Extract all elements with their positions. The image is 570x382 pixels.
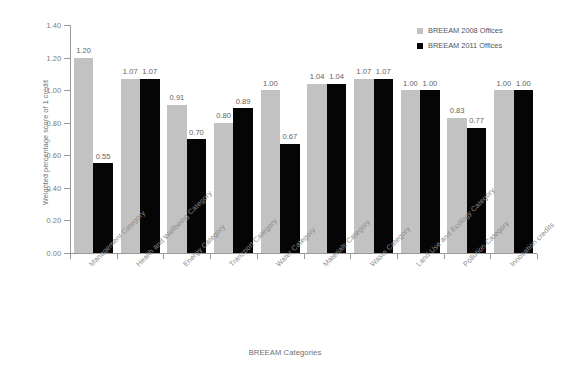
x-axis-tick	[397, 254, 398, 259]
bar-value-label: 0.83	[443, 107, 471, 115]
bar	[280, 144, 300, 253]
bar	[233, 108, 253, 253]
legend-label-2008: BREEAM 2008 Offices	[428, 26, 503, 35]
bar-value-label: 1.00	[510, 80, 538, 88]
x-axis-tick	[444, 254, 445, 259]
bar	[327, 84, 347, 253]
bar-value-label: 1.00	[416, 80, 444, 88]
x-axis-tick	[117, 254, 118, 259]
x-axis-tick	[304, 254, 305, 259]
legend-item-2011[interactable]: BREEAM 2011 Offices	[417, 39, 503, 52]
bar-value-label: 0.91	[163, 94, 191, 102]
x-axis-tick	[257, 254, 258, 259]
x-axis-tick	[350, 254, 351, 259]
x-axis-tick	[163, 254, 164, 259]
legend-item-2008[interactable]: BREEAM 2008 Offices	[417, 24, 503, 37]
bar-value-label: 0.77	[463, 117, 491, 125]
bar-value-label: 1.20	[70, 47, 98, 55]
bar-value-label: 1.00	[257, 80, 285, 88]
bar	[467, 128, 487, 253]
bar	[374, 79, 394, 253]
legend-label-2011: BREEAM 2011 Offices	[428, 41, 502, 50]
bar-chart: Weighted percentage score of 1 credit 0.…	[0, 0, 570, 382]
bar	[140, 79, 160, 253]
bar-value-label: 1.07	[136, 68, 164, 76]
bar	[420, 90, 440, 253]
legend-swatch-2008-icon	[417, 28, 423, 34]
x-axis-tick	[70, 254, 71, 259]
bar-value-label: 0.89	[229, 98, 257, 106]
x-axis-title: BREEAM Categories	[0, 348, 570, 357]
legend: BREEAM 2008 Offices BREEAM 2011 Offices	[417, 24, 503, 54]
x-axis-tick	[537, 254, 538, 259]
x-axis-tick	[210, 254, 211, 259]
bar	[514, 90, 534, 253]
bar-value-label: 1.07	[370, 68, 398, 76]
bar-value-label: 0.67	[276, 133, 304, 141]
bar-value-label: 1.04	[323, 73, 351, 81]
bar-value-label: 0.70	[183, 129, 211, 137]
x-axis-tick	[490, 254, 491, 259]
bar-value-label: 0.55	[89, 153, 117, 161]
legend-swatch-2011-icon	[417, 43, 423, 49]
